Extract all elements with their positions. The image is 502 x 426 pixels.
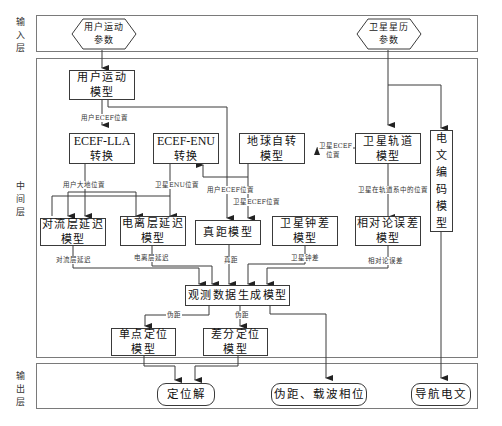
message-encoding-char: 文	[436, 147, 447, 164]
message-encoding-char: 电	[436, 130, 447, 147]
earth-rotation-line2: 模型	[260, 149, 285, 164]
message-encoding-char: 模	[436, 198, 447, 215]
message-encoding-char: 编	[436, 164, 447, 181]
troposphere-delay-model[interactable]: 对流层延迟 模型	[40, 218, 106, 246]
message-encoding-model[interactable]: 电 文 编 码 模 型	[430, 130, 453, 232]
edge-label-sat-enu: 卫星ENU位置	[154, 181, 200, 189]
differential-line2: 模型	[223, 342, 248, 357]
connector-lines	[0, 0, 502, 426]
edge-label-sat-ecef-2: 卫星ECEF位置	[232, 198, 281, 206]
earth-rotation-model[interactable]: 地球自转 模型	[239, 133, 305, 164]
ecef-lla-conversion[interactable]: ECEF-LLA 转换	[69, 133, 135, 164]
single-point-line1: 单点定位	[119, 327, 169, 342]
ecef-enu-line1: ECEF-ENU	[157, 134, 215, 149]
message-encoding-char: 码	[436, 181, 447, 198]
edge-label-sat-clock: 卫星钟差	[290, 254, 320, 262]
edge-label-tropo-delay: 对流层延迟	[55, 256, 92, 264]
differential-positioning-model[interactable]: 差分定位 模型	[203, 328, 268, 356]
satellite-ephemeris-params-line1: 卫星星历	[369, 21, 409, 34]
ionosphere-line2: 模型	[141, 231, 166, 246]
edge-label-pseudorange-1: 伪距	[166, 311, 182, 319]
satellite-ephemeris-params-line2: 参数	[379, 34, 399, 47]
differential-line1: 差分定位	[211, 327, 261, 342]
ecef-enu-line2: 转换	[174, 149, 199, 164]
navigation-message-label: 导航电文	[415, 387, 467, 402]
pseudorange-carrier-label: 伪距、载波相位	[274, 387, 365, 402]
user-motion-params-line1: 用户运动	[84, 21, 124, 34]
edge-label-iono-delay: 电离层延迟	[133, 254, 170, 262]
true-range-label: 真距模型	[203, 225, 253, 240]
ecef-lla-line2: 转换	[90, 149, 115, 164]
relativity-line1: 相对论误差	[357, 216, 420, 231]
observation-generation-label: 观测数据生成模型	[188, 288, 288, 303]
position-solution-output[interactable]: 定位解	[157, 383, 215, 406]
ecef-lla-line1: ECEF-LLA	[74, 134, 131, 149]
satellite-orbit-line2: 模型	[376, 149, 401, 164]
satellite-orbit-model[interactable]: 卫星轨道 模型	[355, 133, 421, 164]
edge-label-user-ecef-2: 用户ECEF位置	[206, 186, 255, 194]
satellite-clock-line1: 卫星钟差	[280, 216, 330, 231]
edge-label-sat-ecef-a: 卫星ECEF	[318, 142, 353, 150]
satellite-orbit-line1: 卫星轨道	[363, 134, 413, 149]
troposphere-line1: 对流层延迟	[42, 217, 105, 232]
ionosphere-line1: 电离层延迟	[122, 216, 185, 231]
ecef-enu-conversion[interactable]: ECEF-ENU 转换	[153, 133, 219, 164]
user-motion-params-node[interactable]: 用户运动 参数	[71, 18, 137, 50]
edge-label-user-geodetic: 用户大地位置	[62, 181, 106, 189]
position-solution-label: 定位解	[167, 387, 206, 402]
troposphere-line2: 模型	[61, 232, 86, 247]
satellite-clock-model[interactable]: 卫星钟差 模型	[272, 216, 338, 246]
navigation-message-output[interactable]: 导航电文	[411, 383, 471, 406]
user-motion-model-line1: 用户运动	[77, 70, 127, 85]
edge-label-pseudorange-2: 伪距	[234, 311, 250, 319]
satellite-ephemeris-params-node[interactable]: 卫星星历 参数	[356, 18, 422, 50]
pseudorange-carrier-phase-output[interactable]: 伪距、载波相位	[271, 383, 367, 406]
message-encoding-char: 型	[436, 215, 447, 232]
relativity-line2: 模型	[376, 231, 401, 246]
single-point-line2: 模型	[131, 342, 156, 357]
edge-label-true-range: 真距	[223, 256, 239, 264]
user-motion-model[interactable]: 用户运动 模型	[69, 70, 135, 100]
true-range-model[interactable]: 真距模型	[195, 220, 261, 245]
user-motion-params-line2: 参数	[94, 34, 114, 47]
single-point-positioning-model[interactable]: 单点定位 模型	[111, 328, 176, 356]
relativity-error-model[interactable]: 相对论误差 模型	[355, 216, 421, 246]
edge-label-sat-ecef-b: 位置	[325, 151, 341, 159]
earth-rotation-line1: 地球自转	[247, 134, 297, 149]
satellite-clock-line2: 模型	[293, 231, 318, 246]
edge-label-user-ecef: 用户ECEF位置	[80, 114, 129, 122]
user-motion-model-line2: 模型	[90, 85, 115, 100]
observation-generation-model[interactable]: 观测数据生成模型	[185, 285, 290, 306]
ionosphere-delay-model[interactable]: 电离层延迟 模型	[120, 216, 186, 246]
edge-label-relativity: 相对论误差	[367, 257, 404, 265]
edge-label-sat-orbit-pos: 卫星在轨道系中的位置	[357, 186, 429, 194]
